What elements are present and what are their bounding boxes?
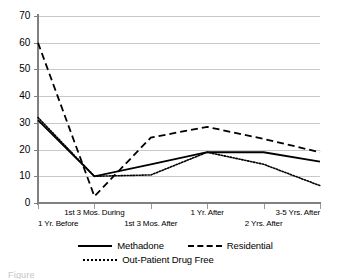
legend-item-residential: Residential bbox=[188, 241, 273, 251]
series-line-methadone bbox=[38, 120, 320, 176]
legend-row-1: Methadone Residential bbox=[0, 239, 351, 253]
legend-row-2: Out-Patient Drug Free bbox=[0, 253, 351, 267]
series-line-residential bbox=[38, 43, 320, 197]
series-line-out-patient-drug-free bbox=[38, 118, 320, 186]
legend: Methadone Residential Out-Patient Drug F… bbox=[0, 239, 351, 267]
legend-label: Out-Patient Drug Free bbox=[122, 255, 213, 265]
figure-caption: Figure bbox=[8, 270, 35, 279]
dotted-line-key bbox=[83, 255, 117, 265]
data-series-layer bbox=[0, 0, 351, 279]
dashed-line-key bbox=[188, 241, 222, 251]
legend-label: Methadone bbox=[117, 241, 164, 251]
legend-item-methadone: Methadone bbox=[78, 241, 164, 251]
line-chart: 010203040506070 1 Yr. Before1st 3 Mos. D… bbox=[0, 0, 351, 279]
legend-item-outpatient-drug-free: Out-Patient Drug Free bbox=[83, 255, 213, 265]
solid-line-key bbox=[78, 241, 112, 251]
legend-label: Residential bbox=[227, 241, 273, 251]
